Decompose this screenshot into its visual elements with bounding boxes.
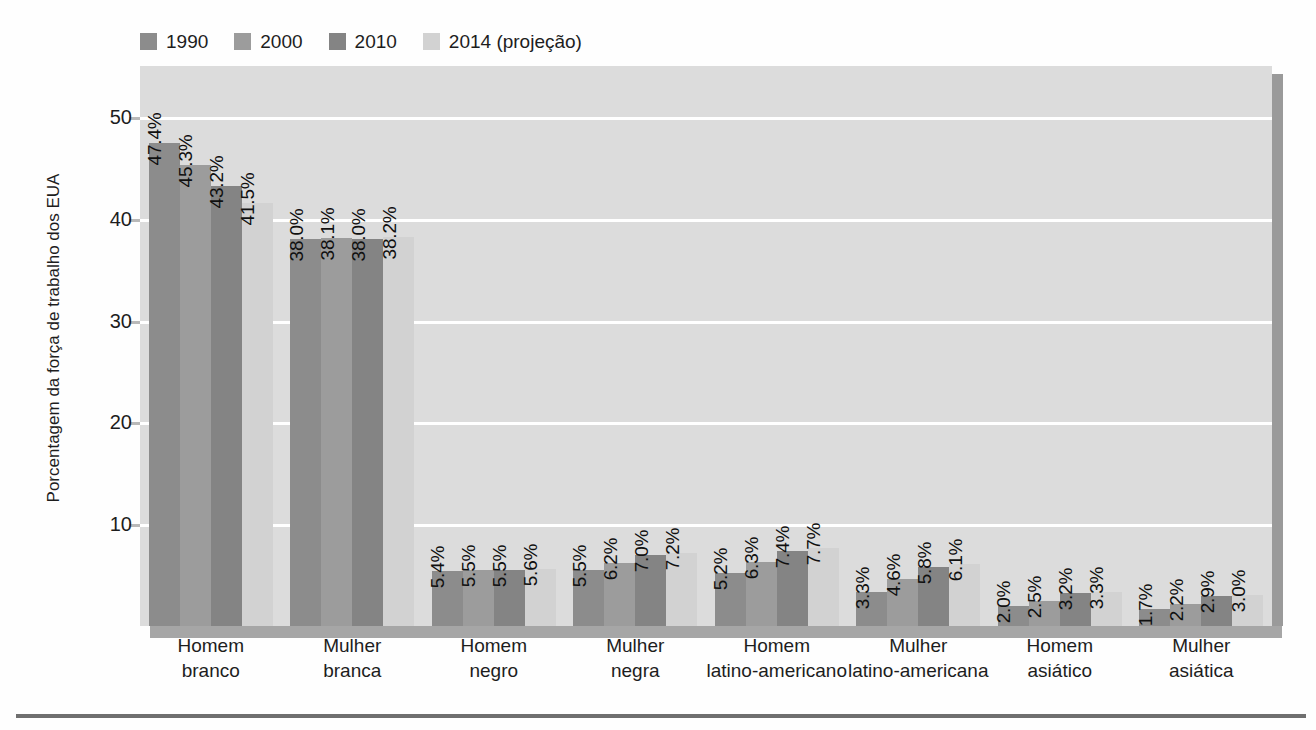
bar-group: 1.7%2.2%2.9%3.0% <box>1131 66 1273 626</box>
page-bottom-rule <box>16 714 1306 718</box>
y-axis-title: Porcentagem da força de trabalho dos EUA <box>44 128 64 548</box>
plot-area: 47.4%45.3%43.2%41.5%38.0%38.1%38.0%38.2%… <box>140 66 1272 626</box>
bar[interactable]: 5.6% <box>525 569 556 626</box>
x-axis-label-line: latino-americana <box>848 659 990 684</box>
plot-right-edge <box>1272 74 1283 626</box>
bar[interactable]: 6.1% <box>949 564 980 626</box>
bar-value-label: 6.1% <box>946 539 965 582</box>
bar-value-label: 5.8% <box>915 542 934 585</box>
y-tick-label: 40 <box>84 208 132 231</box>
x-axis-label: Mulherlatino-americana <box>848 634 990 683</box>
bar[interactable]: 7.7% <box>808 548 839 626</box>
bar-value-label: 1.7% <box>1136 583 1155 626</box>
x-axis-label-line: asiática <box>1131 659 1273 684</box>
x-axis-label: Mulherbranca <box>282 634 424 683</box>
x-axis-label: Homemnegro <box>423 634 565 683</box>
bar[interactable]: 7.2% <box>666 553 697 626</box>
bar-groups: 47.4%45.3%43.2%41.5%38.0%38.1%38.0%38.2%… <box>140 66 1272 626</box>
x-axis-label-line: Mulher <box>565 634 707 659</box>
x-axis-label-line: Mulher <box>282 634 424 659</box>
bar-value-label: 5.5% <box>459 545 478 588</box>
x-axis-label-line: branco <box>140 659 282 684</box>
x-axis-label: Homemasiático <box>989 634 1131 683</box>
bar-value-label: 47.4% <box>145 113 164 166</box>
x-axis-label-line: Mulher <box>848 634 990 659</box>
bar-value-label: 3.3% <box>853 567 872 610</box>
y-tick-label: 10 <box>84 513 132 536</box>
x-axis-label-line: Homem <box>140 634 282 659</box>
bar[interactable]: 38.2% <box>383 237 414 626</box>
bar-value-label: 6.2% <box>601 538 620 581</box>
scanned-page: a a qued do r n ent m di no dos tr b lh … <box>0 0 1316 730</box>
x-axis-label-line: Homem <box>706 634 848 659</box>
bar-value-label: 38.0% <box>287 209 306 262</box>
legend-item-2010[interactable]: 2010 <box>329 32 397 51</box>
bar-group: 5.5%6.2%7.0%7.2% <box>565 66 707 626</box>
legend-label: 1990 <box>166 32 208 51</box>
bar[interactable]: 38.1% <box>321 238 352 626</box>
legend-item-2014[interactable]: 2014 (projeção) <box>423 32 582 51</box>
bar-group: 3.3%4.6%5.8%6.1% <box>848 66 990 626</box>
bar-value-label: 3.2% <box>1056 568 1075 611</box>
bar-value-label: 7.0% <box>632 529 651 572</box>
legend-swatch-icon <box>140 33 157 50</box>
bar-value-label: 43.2% <box>207 156 226 209</box>
bar-value-label: 2.0% <box>994 580 1013 623</box>
bar-group: 2.0%2.5%3.2%3.3% <box>989 66 1131 626</box>
bar-value-label: 5.5% <box>570 545 589 588</box>
bar[interactable]: 38.0% <box>290 239 321 626</box>
legend-item-1990[interactable]: 1990 <box>140 32 208 51</box>
x-axis-label-line: Homem <box>989 634 1131 659</box>
bar[interactable]: 47.4% <box>149 143 180 626</box>
bars: 47.4%45.3%43.2%41.5% <box>149 66 273 626</box>
bar[interactable]: 43.2% <box>211 186 242 626</box>
bar-group: 5.2%6.3%7.4%7.7% <box>706 66 848 626</box>
bar-value-label: 5.2% <box>711 548 730 591</box>
bar[interactable]: 38.0% <box>352 239 383 626</box>
bars: 5.5%6.2%7.0%7.2% <box>573 66 697 626</box>
x-axis-label-line: asiático <box>989 659 1131 684</box>
bar-value-label: 7.7% <box>804 522 823 565</box>
bar-value-label: 7.2% <box>663 527 682 570</box>
bar-value-label: 5.5% <box>490 545 509 588</box>
bars: 38.0%38.1%38.0%38.2% <box>290 66 414 626</box>
bar[interactable]: 6.3% <box>746 562 777 626</box>
bar[interactable]: 3.3% <box>1091 592 1122 626</box>
bar-value-label: 2.2% <box>1167 578 1186 621</box>
bars: 1.7%2.2%2.9%3.0% <box>1139 66 1263 626</box>
bar-value-label: 4.6% <box>884 554 903 597</box>
bar[interactable]: 6.2% <box>604 563 635 626</box>
bar-value-label: 38.0% <box>349 209 368 262</box>
bar-value-label: 2.9% <box>1198 571 1217 614</box>
bar-value-label: 45.3% <box>176 134 195 187</box>
bars: 3.3%4.6%5.8%6.1% <box>856 66 980 626</box>
y-tick-label: 20 <box>84 411 132 434</box>
legend-label: 2000 <box>260 32 302 51</box>
bar[interactable]: 5.2% <box>715 573 746 626</box>
legend-swatch-icon <box>329 33 346 50</box>
bar[interactable]: 3.0% <box>1232 595 1263 626</box>
bar-value-label: 38.1% <box>318 208 337 261</box>
bar[interactable]: 3.3% <box>856 592 887 626</box>
y-tick-label: 30 <box>84 310 132 333</box>
bar-group: 47.4%45.3%43.2%41.5% <box>140 66 282 626</box>
bar[interactable]: 4.6% <box>887 579 918 626</box>
bar-value-label: 6.3% <box>742 537 761 580</box>
bars: 5.2%6.3%7.4%7.7% <box>715 66 839 626</box>
legend-item-2000[interactable]: 2000 <box>234 32 302 51</box>
x-axis-label-line: Homem <box>423 634 565 659</box>
bar-value-label: 38.2% <box>380 207 399 260</box>
legend-label: 2010 <box>355 32 397 51</box>
bar[interactable]: 45.3% <box>180 165 211 626</box>
bar[interactable]: 41.5% <box>242 203 273 626</box>
x-axis-label-line: Mulher <box>1131 634 1273 659</box>
x-axis-label-line: negro <box>423 659 565 684</box>
x-axis-label: Mulherasiática <box>1131 634 1273 683</box>
bars: 5.4%5.5%5.5%5.6% <box>432 66 556 626</box>
x-axis-label: Homemlatino-americano <box>706 634 848 683</box>
x-axis-label-line: latino-americano <box>706 659 848 684</box>
x-axis-label: Homembranco <box>140 634 282 683</box>
bar-group: 38.0%38.1%38.0%38.2% <box>282 66 424 626</box>
y-tick-label: 50 <box>84 106 132 129</box>
x-axis-label-line: negra <box>565 659 707 684</box>
